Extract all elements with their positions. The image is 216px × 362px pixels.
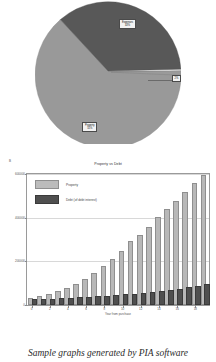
pie-label-property: Property 55% [82, 122, 97, 132]
legend-item-property: Property [35, 180, 97, 189]
bar-group [127, 174, 136, 305]
bar-debt [113, 295, 119, 305]
bar-debt [141, 293, 147, 305]
x-axis-tick-label: 4 [67, 307, 69, 311]
pie-label-expenses: Expenses 43% [119, 19, 136, 29]
bar-chart-plot-area: 0200000400000600000 024681012141618 Year… [26, 173, 210, 306]
bar-debt [104, 296, 110, 305]
bar-debt [150, 292, 156, 305]
bar-debt [177, 289, 183, 305]
bar-group [145, 174, 154, 305]
bar-group [164, 174, 173, 305]
x-axis-tick-mark [159, 305, 160, 308]
bar-chart-title: Property vs Debt [0, 162, 216, 166]
x-axis-tick-label: 2 [49, 307, 51, 311]
bar-group [200, 174, 209, 305]
y-axis-tick-label: 400000 [15, 216, 25, 220]
x-axis-tick-label: 18 [194, 307, 197, 311]
y-axis-tick-label: 200000 [15, 259, 25, 263]
bar-debt [186, 287, 192, 305]
x-axis-tick-label: 10 [121, 307, 124, 311]
pie-chart: Expenses 43% Property 55% 2% [0, 0, 216, 155]
bar-chart-legend: Property Debt (of debt interest) [35, 180, 97, 210]
bar-chart: B Property vs Debt 0200000400000600000 0… [0, 157, 216, 329]
bar-debt [32, 299, 38, 305]
legend-item-debt: Debt (of debt interest) [35, 195, 97, 204]
x-axis-tick-mark [177, 305, 178, 308]
pie-graphic [35, 0, 181, 144]
bar-debt [168, 290, 174, 305]
pie-label-cash: 2% [172, 75, 181, 82]
bar-debt [50, 299, 56, 305]
x-axis-tick-mark [68, 305, 69, 308]
bar-group [182, 174, 191, 305]
bar-debt [95, 296, 101, 305]
bar-group [109, 174, 118, 305]
bar-debt [204, 284, 210, 305]
bar-group [100, 174, 109, 305]
legend-label-debt: Debt (of debt interest) [66, 198, 97, 202]
bar-group [191, 174, 200, 305]
x-axis-tick-mark [86, 305, 87, 308]
bar-debt [132, 294, 138, 305]
figure-caption: Sample graphs generated by PIA software [0, 348, 216, 358]
pie-leader-line [148, 80, 174, 81]
x-axis-tick-mark [50, 305, 51, 308]
bar-group [173, 174, 182, 305]
bar-group [154, 174, 163, 305]
x-axis-tick-label: 16 [175, 307, 178, 311]
bar-debt [195, 286, 201, 305]
x-axis-tick-mark [104, 305, 105, 308]
x-axis-tick-label: 0 [31, 307, 33, 311]
bar-debt [159, 291, 165, 305]
x-axis-tick-mark [32, 305, 33, 308]
legend-swatch-property [35, 180, 59, 189]
bar-group [136, 174, 145, 305]
bar-debt [68, 298, 74, 305]
x-axis-label: Year from purchase [27, 312, 209, 316]
bar-debt [123, 294, 129, 305]
x-axis-tick-mark [123, 305, 124, 308]
bar-debt [59, 298, 65, 305]
x-axis-tick-label: 12 [139, 307, 142, 311]
x-axis-tick-mark [141, 305, 142, 308]
legend-label-property: Property [66, 183, 78, 187]
x-axis-tick-label: 14 [157, 307, 160, 311]
x-axis-tick-mark [195, 305, 196, 308]
y-axis-tick-label: 600000 [15, 172, 25, 176]
x-axis-tick-label: 6 [85, 307, 87, 311]
bar-debt [41, 299, 47, 305]
bar-debt [86, 297, 92, 305]
legend-swatch-debt [35, 195, 59, 204]
y-axis-tick-mark [25, 305, 28, 306]
bar-group [118, 174, 127, 305]
bar-debt [77, 297, 83, 305]
x-axis-tick-label: 8 [104, 307, 106, 311]
figure-page: Expenses 43% Property 55% 2% B Property … [0, 0, 216, 362]
